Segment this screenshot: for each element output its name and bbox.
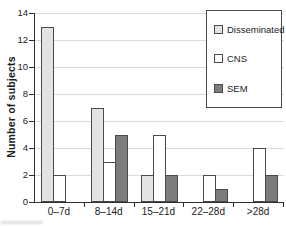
- y-tick-mark: [29, 175, 34, 176]
- x-tick-label: 22–28d: [183, 206, 233, 217]
- x-tick-mark: [283, 203, 284, 207]
- bar-sem-15–21d: [165, 175, 178, 202]
- y-tick-mark: [29, 40, 34, 41]
- y-axis-title: Number of subjects: [5, 27, 17, 187]
- x-tick-label: 8–14d: [84, 206, 134, 217]
- y-tick-mark: [29, 13, 34, 14]
- y-tick-label: 10: [2, 61, 28, 73]
- bar-sem-8–14d: [115, 135, 128, 203]
- legend-marker-icon: [214, 25, 223, 34]
- bar-sem-22–28d: [215, 189, 228, 203]
- x-tick-label: 0–7d: [34, 206, 84, 217]
- gridline-6: [35, 121, 284, 122]
- y-tick-label: 2: [2, 169, 28, 181]
- cropped-caption-artifact: [1, 221, 43, 224]
- y-tick-mark: [29, 67, 34, 68]
- legend-item-disseminated: Disseminated: [214, 24, 281, 35]
- y-tick-mark: [29, 202, 34, 203]
- y-tick-label: 6: [2, 115, 28, 127]
- bar-sem->28d: [265, 175, 278, 202]
- x-tick-label: 15–21d: [134, 206, 184, 217]
- y-tick-label: 0: [2, 196, 28, 208]
- legend-marker-icon: [214, 84, 223, 93]
- legend-label: Disseminated: [227, 24, 285, 35]
- legend-marker-icon: [214, 54, 223, 63]
- y-tick-mark: [29, 148, 34, 149]
- y-tick-mark: [29, 121, 34, 122]
- legend: DisseminatedCNSSEM: [206, 10, 282, 108]
- legend-item-cns: CNS: [214, 53, 281, 64]
- bar-chart-figure: Number of subjects 02468101214 0–7d8–14d…: [0, 0, 286, 226]
- y-tick-label: 4: [2, 142, 28, 154]
- legend-label: CNS: [227, 53, 247, 64]
- y-tick-label: 12: [2, 34, 28, 46]
- y-tick-mark: [29, 94, 34, 95]
- legend-item-sem: SEM: [214, 83, 281, 94]
- x-tick-label: >28d: [233, 206, 283, 217]
- y-tick-label: 14: [2, 7, 28, 19]
- legend-label: SEM: [227, 83, 248, 94]
- y-tick-label: 8: [2, 88, 28, 100]
- bar-cns-0–7d: [53, 175, 66, 202]
